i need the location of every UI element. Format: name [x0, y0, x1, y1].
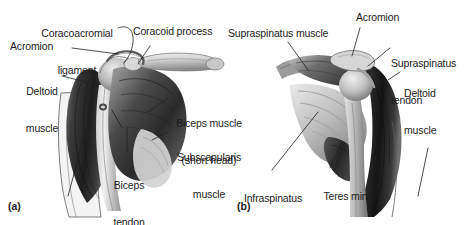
label-biceps-tendon-line1: Biceps [94, 179, 164, 191]
label-deltoid-muscle-b-line1: Deltoid [404, 87, 436, 99]
panel-letter-b: (b) [237, 200, 250, 212]
label-acromion-a: Acromion [10, 40, 53, 52]
label-subscapularis-line1: Subscapularis [167, 151, 251, 163]
label-deltoid-muscle-b: Deltoid muscle [404, 63, 436, 161]
label-infraspinatus-muscle: Infraspinatus muscle [232, 168, 314, 225]
anatomy-figure: Coracoacromial ligament Acromion Deltoid… [0, 0, 465, 225]
panel-letter-a: (a) [8, 200, 21, 212]
label-teres-minor-muscle: Teres minor muscle [310, 166, 390, 225]
label-deltoid-muscle-a-line2: muscle [12, 122, 72, 134]
label-coracoacromial-ligament-line1: Coracoacromial [18, 27, 136, 39]
label-deltoid-muscle-a: Deltoid muscle [12, 61, 72, 159]
label-supraspinatus-muscle: Supraspinatus muscle [228, 27, 328, 39]
label-deltoid-muscle-b-line2: muscle [404, 124, 436, 136]
label-biceps-tendon-line2: tendon [94, 216, 164, 225]
label-teres-minor-line1: Teres minor [310, 190, 390, 202]
label-deltoid-muscle-a-line1: Deltoid [12, 85, 72, 97]
label-coracoid-process: Coracoid process [133, 25, 212, 37]
label-acromion-b: Acromion [356, 11, 399, 23]
label-biceps-tendon-long-head: Biceps tendon (long head) [94, 155, 164, 225]
